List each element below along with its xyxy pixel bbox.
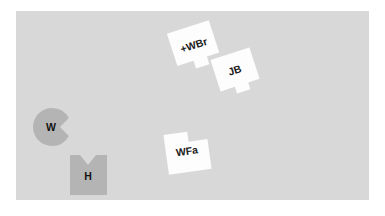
w-piece-label: W — [46, 121, 56, 133]
shape-jb[interactable]: JB — [210, 47, 261, 98]
shape-wfa[interactable]: WFa — [163, 129, 211, 175]
h-piece-label: H — [84, 170, 92, 182]
shape-h[interactable]: H — [70, 155, 107, 195]
shape-w[interactable]: W — [33, 108, 69, 146]
shape-scene: W H +WBr JB WFa — [0, 0, 385, 216]
shape-layer: W H +WBr JB WFa — [0, 0, 385, 216]
